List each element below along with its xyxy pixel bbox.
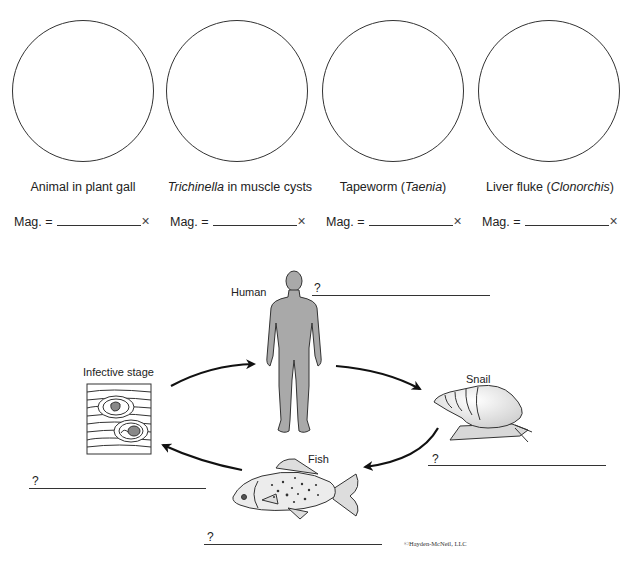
label-infective-stage: Infective stage: [83, 366, 154, 378]
answer-line-infective[interactable]: [29, 488, 206, 489]
arrow-fish-to-infective: [163, 445, 242, 470]
label-snail: Snail: [466, 373, 490, 385]
question-mark-fish: ?: [207, 530, 214, 544]
answer-line-human[interactable]: [312, 295, 490, 296]
answer-line-snail[interactable]: [428, 465, 606, 466]
question-mark-snail: ?: [432, 452, 439, 466]
arrow-human-to-snail: [336, 366, 420, 389]
question-mark-human: ?: [314, 281, 321, 295]
infective-stage-icon: [87, 384, 151, 454]
arrow-infective-to-human: [171, 364, 254, 386]
snail-icon: [434, 385, 532, 442]
label-fish: Fish: [308, 453, 329, 465]
copyright-text: ©Hayden-McNeil, LLC: [404, 540, 467, 547]
label-human: Human: [231, 286, 266, 298]
fish-icon: [233, 459, 358, 519]
question-mark-infective: ?: [32, 474, 39, 488]
answer-line-fish[interactable]: [204, 544, 382, 545]
arrow-snail-to-fish: [365, 428, 438, 467]
